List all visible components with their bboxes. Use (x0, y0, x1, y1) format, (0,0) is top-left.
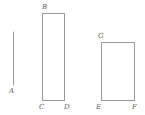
vertex-label-f: F (132, 103, 137, 111)
vertex-label-d: D (64, 103, 70, 111)
vertex-label-e: E (96, 103, 101, 111)
geometry-figure-canvas: A B C D G E F (0, 0, 145, 115)
rectangle-gef-outline (102, 43, 135, 101)
vertex-label-c: C (39, 103, 44, 111)
vertex-label-a: A (9, 87, 14, 95)
vertex-label-b: B (42, 3, 47, 11)
rectangle-bcd-outline (43, 14, 65, 101)
figure-vector-layer (0, 0, 145, 115)
vertex-label-g: G (98, 32, 104, 40)
